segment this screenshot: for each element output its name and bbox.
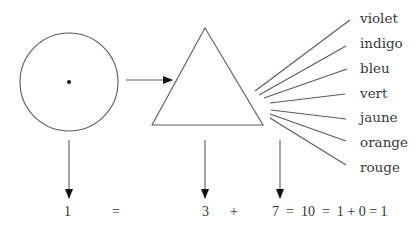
equation-rest: = 10 = 1 + 0 = 1 xyxy=(286,204,388,219)
label-indigo: indigo xyxy=(360,35,403,51)
spectrum-rays xyxy=(255,20,350,165)
label-rouge: rouge xyxy=(360,159,400,175)
equation-term-1: 1 xyxy=(64,204,71,219)
label-jaune: jaune xyxy=(358,109,398,125)
circle-node xyxy=(20,33,118,131)
spectrum-labels: violet indigo bleu vert jaune orange rou… xyxy=(358,10,408,175)
equation-term-7: 7 xyxy=(272,204,279,219)
label-bleu: bleu xyxy=(360,60,390,76)
prism-triangle xyxy=(152,28,263,125)
ray-indigo xyxy=(259,46,346,95)
label-violet: violet xyxy=(359,10,398,26)
equation-equals: = xyxy=(112,204,120,219)
ray-bleu xyxy=(264,69,347,98)
equation-term-3: 3 xyxy=(202,204,209,219)
diagram-canvas: violet indigo bleu vert jaune orange rou… xyxy=(0,0,420,233)
label-orange: orange xyxy=(360,134,408,150)
ray-jaune xyxy=(271,110,346,119)
ray-rouge xyxy=(270,118,346,165)
label-vert: vert xyxy=(359,85,388,101)
equation-row: 1 = 3 + 7 = 10 = 1 + 0 = 1 xyxy=(64,204,388,219)
equation-plus: + xyxy=(230,204,238,219)
ray-violet xyxy=(255,20,350,91)
center-dot xyxy=(67,80,71,84)
ray-vert xyxy=(270,94,345,103)
